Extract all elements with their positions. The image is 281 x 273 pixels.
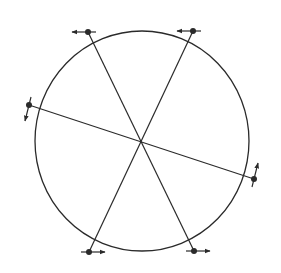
point-bottom-left (81, 249, 105, 255)
arrow-down-icon (25, 97, 31, 121)
circle-outline (35, 31, 249, 251)
dot-icon (190, 28, 196, 34)
dot-icon (86, 249, 92, 255)
dot-icon (251, 176, 257, 182)
diameter-lines (29, 31, 254, 252)
point-right (251, 163, 258, 187)
dot-icon (85, 29, 91, 35)
circle-diameters-diagram (0, 0, 281, 273)
point-top-right (177, 28, 201, 34)
point-left (25, 97, 32, 121)
point-top-left (72, 29, 96, 35)
line-c (29, 105, 254, 179)
dot-icon (26, 102, 32, 108)
arrow-up-icon (252, 163, 258, 187)
diagram-canvas (0, 0, 281, 273)
point-bottom-right (186, 248, 210, 254)
dot-icon (191, 248, 197, 254)
